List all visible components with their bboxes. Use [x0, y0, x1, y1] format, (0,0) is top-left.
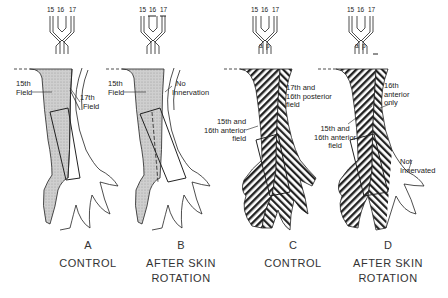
panel-letter-c: C	[263, 239, 323, 251]
nerve-label: 17	[368, 6, 375, 13]
nerve-label: 15	[347, 6, 354, 13]
label-no-innervation-b: NoInnervation	[172, 80, 209, 97]
branch-label-posterior: p	[362, 42, 366, 49]
nerve-diagram-a	[50, 16, 74, 54]
label-17th-field-a: 17thField	[80, 94, 99, 111]
label-17th-16th-posterior-c: 17th and16th posteriorfield	[286, 84, 332, 110]
nerve-label: 16	[261, 6, 268, 13]
nerve-label: 15	[47, 6, 54, 13]
nerve-label: 17	[272, 6, 279, 13]
leader-lines-c	[246, 126, 258, 130]
panel-d	[318, 16, 424, 230]
panel-caption-c: CONTROL	[238, 256, 348, 271]
nerve-label: 16	[357, 6, 364, 13]
nerve-label: 15	[251, 6, 258, 13]
nerve-label: 15	[139, 6, 146, 13]
panel-caption-d: AFTER SKINROTATION	[333, 256, 443, 286]
label-not-innervated-d: NotInnervated	[400, 158, 435, 175]
nerve-label: 16	[57, 6, 64, 13]
panel-letter-b: B	[151, 239, 211, 251]
figure-canvas	[0, 0, 448, 298]
branch-label-posterior: p	[266, 42, 270, 49]
label-15th-field-a: 15thField	[16, 80, 32, 97]
label-15th-16th-anterior-c: 15th and16th anteriorfield	[204, 118, 246, 144]
panel-a	[14, 16, 118, 230]
nerve-diagram-b	[141, 16, 166, 54]
branch-label-anterior: a	[355, 42, 359, 49]
branch-label-anterior: a	[259, 42, 263, 49]
panel-b	[106, 16, 210, 230]
nerve-diagram-c	[253, 16, 277, 54]
label-15th-16th-anterior-d: 15th and16th anteriorfield	[314, 125, 356, 151]
label-15th-field-b: 15thField	[108, 80, 124, 97]
label-16th-anterior-only-d: 16thanterioronly	[384, 82, 409, 108]
nerve-label: 16	[149, 6, 156, 13]
panel-letter-a: A	[58, 239, 118, 251]
panel-letter-d: D	[358, 239, 418, 251]
panel-caption-b: AFTER SKINROTATION	[126, 256, 236, 286]
nerve-label: 17	[160, 6, 167, 13]
nerve-label: 17	[69, 6, 76, 13]
